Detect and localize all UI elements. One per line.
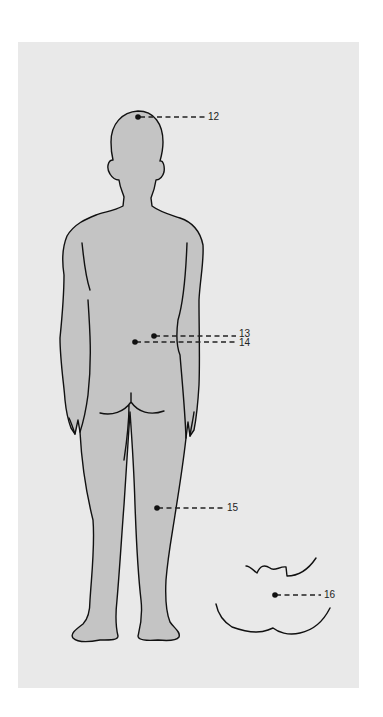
point-label-12: 12 xyxy=(208,112,219,122)
inset-upper-lip xyxy=(246,558,316,576)
point-16-marker xyxy=(272,592,278,598)
inset-chin xyxy=(216,604,330,634)
body-diagram xyxy=(0,0,383,717)
point-12-marker xyxy=(135,114,141,120)
point-14-marker xyxy=(132,339,138,345)
point-label-16: 16 xyxy=(324,590,335,600)
point-13-marker xyxy=(151,333,157,339)
point-label-15: 15 xyxy=(227,503,238,513)
point-15-marker xyxy=(154,505,160,511)
point-label-14: 14 xyxy=(239,338,250,348)
